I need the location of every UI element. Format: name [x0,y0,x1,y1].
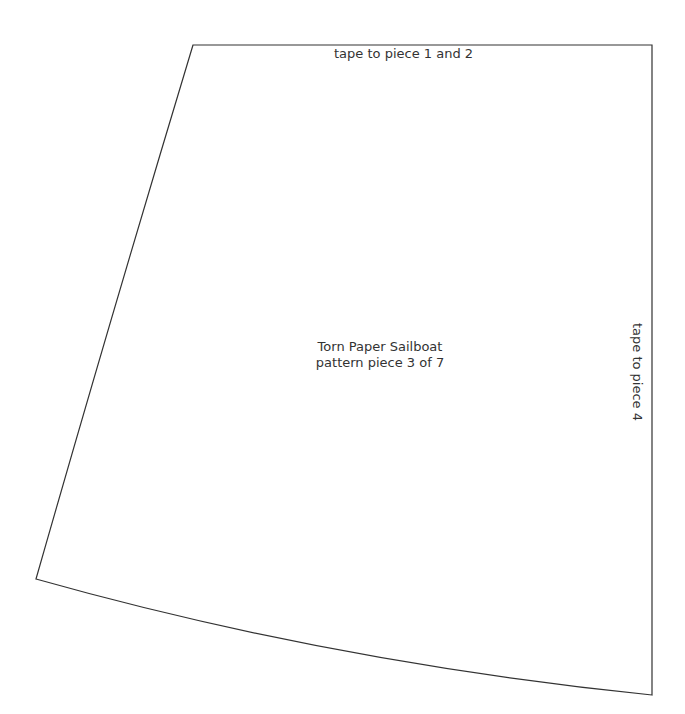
top-edge-label: tape to piece 1 and 2 [334,46,473,62]
right-edge-label: tape to piece 4 [629,323,645,421]
pattern-title-block: Torn Paper Sailboat pattern piece 3 of 7 [280,339,480,371]
pattern-subtitle: pattern piece 3 of 7 [280,355,480,371]
pattern-title: Torn Paper Sailboat [280,339,480,355]
